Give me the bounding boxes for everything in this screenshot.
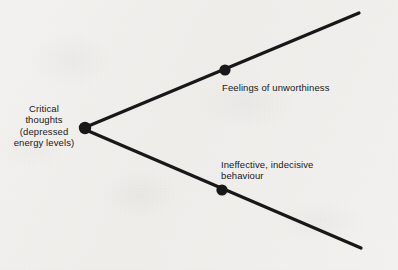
- root-node-label: Critical thoughts (depressed energy leve…: [6, 103, 82, 149]
- lower-branch-label: Ineffective, indecisive behaviour: [221, 159, 313, 182]
- upper-branch-node-dot: [219, 64, 230, 75]
- upper-branch-label: Feelings of unworthiness: [222, 82, 329, 93]
- lower-branch-node-dot: [216, 184, 227, 195]
- branching-diagram-figure: Critical thoughts (depressed energy leve…: [0, 0, 398, 270]
